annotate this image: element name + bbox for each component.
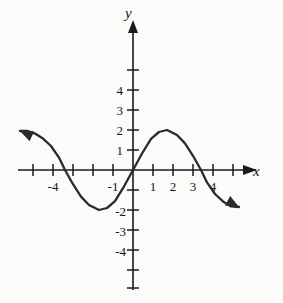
y-tick-label-4: 4	[117, 83, 124, 98]
x-tick-label-1: 1	[150, 179, 157, 194]
y-tick-label--3: -3	[115, 224, 126, 239]
x-tick-label-2: 2	[170, 179, 177, 194]
x-axis-label: x	[252, 163, 260, 179]
y-axis-label: y	[123, 5, 132, 21]
x-tick-label-3: 3	[190, 179, 197, 194]
y-tick-label-2: 2	[117, 123, 124, 138]
y-tick-label--2: -2	[115, 204, 126, 219]
y-tick-label-1: 1	[117, 143, 124, 158]
y-tick-label-3: 3	[117, 103, 124, 118]
x-axis-group	[18, 164, 257, 176]
curve-left-arrowhead	[20, 131, 34, 141]
y-axis-arrowhead	[128, 20, 138, 33]
x-tick-label--4: -4	[48, 179, 59, 194]
x-tick-label--1: -1	[108, 179, 119, 194]
graph-canvas: x y -4 -1 1 2 3 4 4 3 2 1 -2 -3 -4	[0, 0, 283, 303]
curve-right-arrowhead	[225, 196, 239, 207]
figure-container: x y -4 -1 1 2 3 4 4 3 2 1 -2 -3 -4	[0, 0, 283, 303]
y-axis-group	[127, 20, 139, 290]
y-tick-label--4: -4	[115, 244, 126, 259]
